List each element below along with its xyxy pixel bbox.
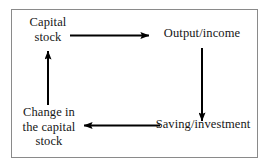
node-label-change-in-capital-stock: Change in the capital stock (12, 105, 86, 149)
diagram-canvas: Capital stock Output/income Saving/inves… (0, 0, 271, 168)
node-label-saving-investment: Saving/investment (150, 117, 256, 132)
node-label-capital-stock: Capital stock (12, 15, 84, 44)
node-label-output-income: Output/income (152, 26, 252, 41)
